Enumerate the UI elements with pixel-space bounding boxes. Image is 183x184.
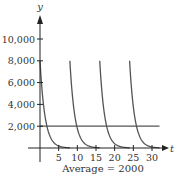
y-axis-ticks: 2,0004,0006,0008,00010,000: [2, 34, 43, 132]
x-tick-label: 5: [56, 152, 62, 163]
x-tick-label: 10: [71, 152, 83, 163]
x-tick-label: 15: [90, 152, 102, 163]
decay-curves: [40, 61, 159, 148]
decay-curve: [100, 61, 130, 148]
axes: [28, 15, 169, 162]
y-axis-label: y: [36, 1, 43, 12]
y-tick-label: 2,000: [8, 121, 35, 132]
y-tick-label: 6,000: [8, 77, 35, 88]
x-tick-label: 25: [127, 152, 139, 163]
decay-curve: [40, 61, 70, 148]
chart: 51015202530 2,0004,0006,0008,00010,000 y…: [0, 0, 183, 184]
decay-curve: [130, 61, 160, 148]
y-tick-label: 10,000: [2, 34, 35, 45]
chart-caption: Average = 2000: [61, 163, 144, 174]
y-axis-arrow-icon: [37, 15, 43, 24]
x-axis-arrow-icon: [162, 145, 169, 151]
y-tick-label: 8,000: [8, 55, 35, 66]
x-tick-label: 30: [146, 152, 158, 163]
y-tick-label: 4,000: [8, 99, 35, 110]
decay-curve: [70, 61, 100, 148]
x-tick-label: 20: [109, 152, 121, 163]
x-axis-label: t: [170, 143, 175, 154]
